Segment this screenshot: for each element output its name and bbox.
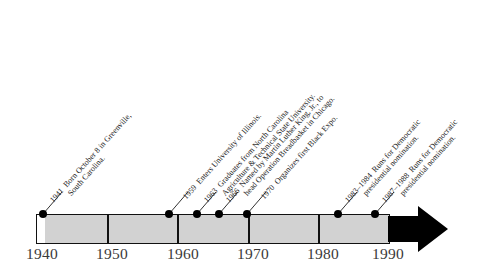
decade-divider-1970 — [248, 215, 250, 243]
event-label-1941: 1941 Born October 8 in Greenville, South… — [48, 111, 140, 211]
tick-label-1970: 1970 — [237, 245, 269, 263]
timeline-axis-bar — [36, 214, 390, 244]
tick-label-1980: 1980 — [307, 245, 339, 263]
tick-label-1960: 1960 — [167, 245, 199, 263]
tick-label-1990: 1990 — [372, 245, 404, 263]
event-year: 1970 — [259, 183, 277, 201]
event-dot-1987[interactable] — [371, 210, 379, 218]
event-dot-1959[interactable] — [165, 210, 173, 218]
decade-divider-1960 — [177, 215, 179, 243]
bar-leading-white-segment — [37, 215, 45, 243]
decade-divider-1980 — [318, 215, 320, 243]
event-label-1966: 1966 Named by Martin Luther King, Jr., t… — [224, 88, 337, 211]
event-label-line2: South Carolina. — [55, 117, 140, 210]
decade-divider-1950 — [107, 215, 109, 243]
event-dot-1963[interactable] — [193, 210, 201, 218]
event-dot-1970[interactable] — [243, 210, 251, 218]
event-year: 1959 — [181, 183, 199, 201]
event-dot-1983[interactable] — [334, 210, 342, 218]
event-label-line1: 1941 Born October 8 in Greenville, — [48, 111, 133, 204]
timeline-figure: 1941 Born October 8 in Greenville, South… — [0, 0, 496, 272]
event-dot-1966[interactable] — [215, 210, 223, 218]
tick-label-1950: 1950 — [96, 245, 128, 263]
tick-label-1940: 1940 — [26, 245, 58, 263]
event-dot-1941[interactable] — [39, 210, 47, 218]
